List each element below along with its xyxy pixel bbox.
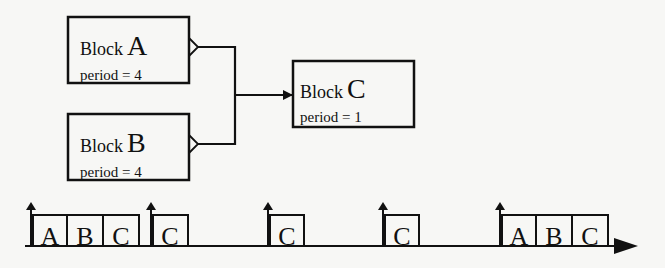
timeline-group-1: A B C [26, 202, 139, 251]
timeline-group-4: C [378, 202, 419, 251]
tick-arrow-icon [378, 202, 388, 210]
cell-label: C [161, 222, 178, 251]
block-c-period: period = 1 [300, 109, 362, 125]
block-b: BlockB period = 4 [68, 114, 198, 180]
diagram-canvas: BlockA period = 4 BlockB period = 4 Bloc… [0, 0, 665, 268]
tick-arrow-icon [26, 202, 36, 210]
block-b-period: period = 4 [80, 164, 142, 180]
block-b-prefix: Block [80, 136, 123, 156]
block-b-output-port-icon [189, 135, 198, 153]
block-c-prefix: Block [300, 82, 343, 102]
connector-lines [198, 47, 292, 144]
timeline-group-2: C [146, 202, 188, 251]
cell-label: A [41, 222, 60, 251]
cell-label: C [278, 222, 295, 251]
timeline-group-5: A B C [495, 202, 608, 251]
block-b-letter: B [127, 127, 146, 158]
svg-text:BlockB: BlockB [80, 127, 146, 158]
svg-text:BlockA: BlockA [80, 30, 148, 61]
tick-arrow-icon [146, 202, 156, 210]
tick-arrow-icon [495, 202, 505, 210]
tick-arrow-icon [263, 202, 273, 210]
block-a-letter: A [127, 30, 148, 61]
block-c-letter: C [347, 73, 366, 104]
cell-label: B [76, 222, 93, 251]
timeline-arrowhead-icon [614, 238, 638, 254]
timeline-group-3: C [263, 202, 304, 251]
block-a-prefix: Block [80, 39, 123, 59]
block-a: BlockA period = 4 [68, 17, 198, 83]
cell-label: C [393, 222, 410, 251]
cell-label: A [510, 222, 529, 251]
block-a-period: period = 4 [80, 67, 142, 83]
svg-text:BlockC: BlockC [300, 73, 366, 104]
block-c: BlockC period = 1 [293, 61, 414, 127]
cell-label: B [545, 222, 562, 251]
cell-label: C [581, 222, 598, 251]
block-a-output-port-icon [189, 38, 198, 56]
cell-label: C [112, 222, 129, 251]
